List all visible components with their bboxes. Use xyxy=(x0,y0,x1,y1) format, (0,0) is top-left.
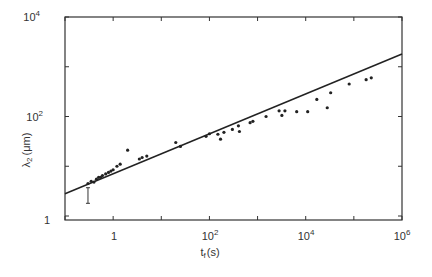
fit-line xyxy=(65,54,402,194)
data-point xyxy=(231,128,234,131)
data-point xyxy=(283,109,286,112)
data-point xyxy=(119,163,122,166)
data-point xyxy=(112,168,115,171)
x-axis-title: tf(s) xyxy=(200,246,219,260)
x-tick-label-1000000: 106 xyxy=(394,228,411,242)
data-point xyxy=(264,115,267,118)
y-tick-label-100: 102 xyxy=(26,109,43,123)
plot-frame xyxy=(65,17,402,220)
data-point xyxy=(306,110,309,113)
data-point xyxy=(216,133,219,136)
data-point xyxy=(238,130,241,133)
y-tick-label-10000: 104 xyxy=(23,9,40,23)
data-point xyxy=(329,91,332,94)
x-tick-label-100: 102 xyxy=(202,228,219,242)
data-point xyxy=(174,141,177,144)
data-point xyxy=(315,98,318,101)
data-point xyxy=(251,120,254,123)
axis-ticks xyxy=(65,17,402,220)
data-point xyxy=(126,149,129,152)
data-point xyxy=(138,157,141,160)
data-point xyxy=(141,156,144,159)
data-point xyxy=(104,172,107,175)
regression-line xyxy=(65,54,402,194)
log-log-chart: 1 102 104 1 102 104 106 tf(s) λ2(μm) xyxy=(0,0,432,277)
data-point xyxy=(370,76,373,79)
y-tick-label-1: 1 xyxy=(44,214,50,226)
data-point xyxy=(101,174,104,177)
data-points xyxy=(86,76,373,203)
data-point xyxy=(219,138,222,141)
data-point xyxy=(237,124,240,127)
data-point xyxy=(365,78,368,81)
data-point xyxy=(145,154,148,157)
data-point xyxy=(277,109,280,112)
data-point xyxy=(249,121,252,124)
x-tick-label-1: 1 xyxy=(111,230,117,242)
data-point xyxy=(115,165,118,168)
data-point xyxy=(295,110,298,113)
data-point xyxy=(348,82,351,85)
data-point xyxy=(326,106,329,109)
y-axis-title: λ2(μm) xyxy=(20,133,34,168)
data-point xyxy=(222,131,225,134)
x-tick-label-10000: 104 xyxy=(298,228,315,242)
data-point xyxy=(280,114,283,117)
